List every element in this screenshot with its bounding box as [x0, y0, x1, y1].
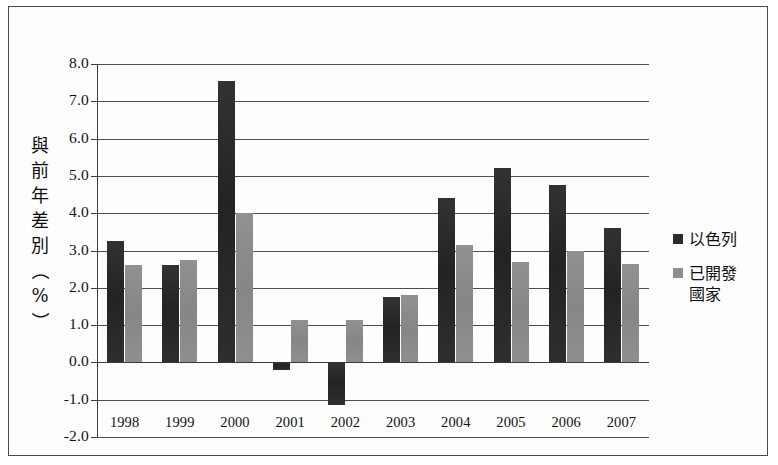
- y-tick-label: 7.0: [35, 91, 89, 109]
- bar-israel-2007: [604, 228, 621, 362]
- zero-gridline: [97, 362, 649, 363]
- y-tick-mark: [91, 251, 97, 252]
- y-tick-mark: [91, 101, 97, 102]
- gridline: [97, 101, 649, 102]
- gridline: [97, 139, 649, 140]
- bar-israel-2006: [549, 185, 566, 362]
- x-tick-label-2006: 2006: [539, 414, 594, 431]
- y-tick-mark: [91, 176, 97, 177]
- bar-developed-2006: [567, 251, 584, 363]
- gridline: [97, 176, 649, 177]
- legend-label: 已開發 國家: [689, 263, 737, 305]
- bar-developed-2002: [346, 320, 363, 363]
- x-axis-labels: 1998199920002001200220032004200520062007: [97, 410, 649, 437]
- x-tick-label-2000: 2000: [207, 414, 262, 431]
- legend-item-0: 以色列: [673, 229, 765, 250]
- bar-developed-2007: [622, 264, 639, 363]
- y-tick-label: 5.0: [35, 166, 89, 184]
- bar-israel-1998: [107, 241, 124, 362]
- legend-label: 以色列: [689, 229, 737, 250]
- y-tick-label: 0.0: [35, 352, 89, 370]
- gridline: [97, 213, 649, 214]
- x-tick-label-2007: 2007: [594, 414, 649, 431]
- bar-developed-2001: [291, 320, 308, 363]
- x-tick-label-2002: 2002: [318, 414, 373, 431]
- bar-developed-1998: [125, 265, 142, 362]
- bar-developed-2005: [512, 262, 529, 363]
- bar-developed-1999: [180, 260, 197, 363]
- bar-israel-2000: [218, 81, 235, 363]
- x-tick-label-2003: 2003: [373, 414, 428, 431]
- legend-item-1: 已開發 國家: [673, 263, 765, 305]
- y-tick-label: 2.0: [35, 278, 89, 296]
- y-axis-line: [97, 64, 98, 437]
- x-tick-label-1999: 1999: [152, 414, 207, 431]
- bar-israel-2001: [273, 362, 290, 369]
- y-tick-mark: [91, 139, 97, 140]
- x-tick-label-2004: 2004: [428, 414, 483, 431]
- y-tick-label: 8.0: [35, 54, 89, 72]
- y-axis-title: 與前年差別（%）: [23, 133, 57, 333]
- bar-developed-2000: [236, 213, 253, 362]
- bar-israel-2005: [494, 168, 511, 362]
- y-tick-label: 3.0: [35, 241, 89, 259]
- bar-israel-2002: [328, 362, 345, 405]
- y-tick-label: -1.0: [35, 390, 89, 408]
- y-tick-mark: [91, 362, 97, 363]
- legend-swatch-developed: [673, 268, 683, 278]
- x-tick-label-2001: 2001: [263, 414, 318, 431]
- bar-developed-2003: [401, 295, 418, 362]
- y-tick-label: -2.0: [35, 427, 89, 445]
- gridline: [97, 64, 649, 65]
- y-tick-label: 1.0: [35, 315, 89, 333]
- y-tick-mark: [91, 325, 97, 326]
- gridline: [97, 437, 649, 438]
- y-tick-label: 6.0: [35, 129, 89, 147]
- x-tick-label-1998: 1998: [97, 414, 152, 431]
- y-tick-mark: [91, 400, 97, 401]
- legend-swatch-israel: [673, 234, 683, 244]
- gridline: [97, 400, 649, 401]
- y-tick-mark: [91, 213, 97, 214]
- y-tick-mark: [91, 437, 97, 438]
- chart-legend: 以色列已開發 國家: [673, 229, 765, 318]
- x-tick-label-2005: 2005: [483, 414, 538, 431]
- bar-israel-2004: [438, 198, 455, 362]
- bar-israel-1999: [162, 265, 179, 362]
- y-tick-mark: [91, 288, 97, 289]
- bar-israel-2003: [383, 297, 400, 362]
- figure-frame: 與前年差別（%） 8.07.06.05.04.03.02.01.00.0-1.0…: [8, 6, 768, 456]
- y-tick-label: 4.0: [35, 203, 89, 221]
- plot-area: [97, 64, 649, 437]
- y-tick-mark: [91, 64, 97, 65]
- bar-developed-2004: [456, 245, 473, 362]
